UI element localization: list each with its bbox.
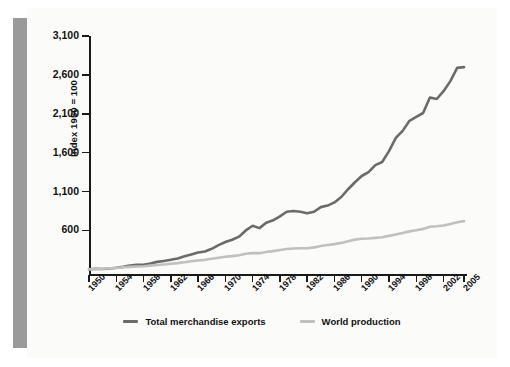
- y-axis-tick-label: 2,100: [27, 107, 79, 119]
- x-axis-tick: [143, 275, 145, 282]
- y-axis-tick-label: 600: [27, 223, 79, 235]
- y-axis-tick-label: 1,100: [27, 185, 79, 197]
- x-axis-line: [89, 274, 467, 276]
- legend-swatch-icon: [300, 320, 315, 323]
- plot-area: [89, 36, 464, 274]
- legend-item-exports[interactable]: Total merchandise exports: [123, 316, 265, 327]
- chart-page: Index 1950 = 100 6001,1001,6002,1002,600…: [0, 0, 510, 367]
- y-axis-tick: [82, 113, 89, 115]
- decorative-side-bar: [13, 18, 27, 348]
- series-lines: [89, 36, 464, 274]
- legend-item-production[interactable]: World production: [300, 316, 401, 327]
- legend-label: Total merchandise exports: [145, 316, 265, 327]
- series-line-world-production: [89, 221, 464, 269]
- y-axis-tick: [82, 230, 89, 232]
- y-axis-tick-label: 3,100: [27, 29, 79, 41]
- chart-figure: Index 1950 = 100 6001,1001,6002,1002,600…: [27, 8, 497, 358]
- x-axis-tick: [443, 275, 445, 282]
- legend-swatch-icon: [123, 320, 138, 323]
- legend-label: World production: [322, 316, 401, 327]
- y-axis-tick: [82, 152, 89, 154]
- y-axis-tick: [82, 35, 89, 37]
- y-axis-tick: [82, 191, 89, 193]
- series-line-total-merchandise-exports: [89, 67, 464, 269]
- y-axis-tick-label: 1,600: [27, 146, 79, 158]
- y-axis-tick: [82, 74, 89, 76]
- y-axis-tick-label: 2,600: [27, 68, 79, 80]
- chart-legend: Total merchandise exportsWorld productio…: [27, 316, 497, 327]
